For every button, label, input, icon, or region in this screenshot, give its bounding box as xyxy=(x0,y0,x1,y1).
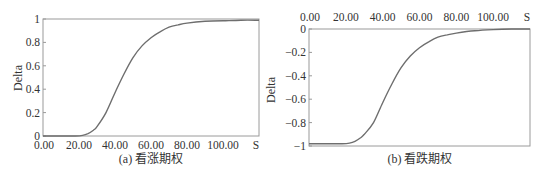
x-tick-label: 80.00 xyxy=(174,139,200,151)
call-delta-chart: 00.20.40.60.81 0.0020.0040.0060.0080.001… xyxy=(11,13,259,166)
y-axis-label: Delta xyxy=(11,64,25,91)
y-axis-label: Delta xyxy=(264,76,278,103)
put-delta-chart: 0−0.2−0.4−0.6−0.8−1 0.0020.0040.0060.008… xyxy=(264,11,530,166)
y-tick-label: −0.4 xyxy=(285,70,306,82)
x-tick-label: 40.00 xyxy=(370,11,396,23)
put-delta-line xyxy=(309,29,530,144)
y-tick-label: −1 xyxy=(294,140,306,152)
y-tick-label: 0.4 xyxy=(26,83,41,95)
plot-area-frame xyxy=(43,19,259,136)
y-tick-label: 0.8 xyxy=(26,36,41,48)
x-axis-label: S xyxy=(253,139,259,151)
x-tick-label: 100.00 xyxy=(207,139,239,151)
x-axis-label: S xyxy=(524,11,530,23)
figure: 00.20.40.60.81 0.0020.0040.0060.0080.001… xyxy=(0,0,534,178)
y-tick-label: 0.6 xyxy=(26,60,41,72)
x-tick-label: 100.00 xyxy=(477,11,509,23)
x-tick-label: 60.00 xyxy=(138,139,164,151)
x-tick-label: 20.00 xyxy=(66,139,92,151)
x-tick-label: 80.00 xyxy=(443,11,469,23)
x-tick-label: 60.00 xyxy=(407,11,433,23)
x-tick-label: 0.00 xyxy=(300,11,320,23)
x-tick-label: 0.00 xyxy=(34,139,54,151)
y-tick-label: −0.2 xyxy=(285,46,306,58)
y-tick-label: 0 xyxy=(300,23,306,35)
y-tick-label: 1 xyxy=(34,13,40,25)
plot-area-frame xyxy=(309,29,530,146)
x-tick-label: 40.00 xyxy=(102,139,128,151)
chart-caption: (a) 看涨期权 xyxy=(119,151,183,166)
y-tick-label: −0.6 xyxy=(285,93,306,105)
x-tick-label: 20.00 xyxy=(333,11,359,23)
x-axis-ticks: 0.0020.0040.0060.0080.00100.00S xyxy=(34,139,259,151)
y-tick-label: −0.8 xyxy=(285,117,306,129)
y-axis-ticks: 0−0.2−0.4−0.6−0.8−1 xyxy=(285,23,312,152)
call-delta-line xyxy=(43,20,259,136)
x-axis-ticks: 0.0020.0040.0060.0080.00100.00S xyxy=(300,11,530,23)
chart-caption: (b) 看跌期权 xyxy=(388,151,453,166)
y-tick-label: 0.2 xyxy=(26,107,41,119)
